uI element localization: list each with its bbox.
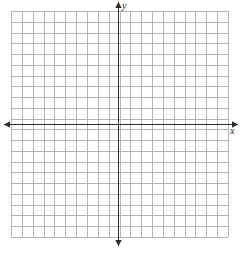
- grid-and-axes-svg: [0, 0, 244, 259]
- y-axis-arrow-up: [115, 2, 121, 8]
- coordinate-grid-figure: y x: [0, 0, 244, 259]
- x-axis-arrow-left: [4, 121, 10, 127]
- y-axis-label: y: [122, 1, 126, 11]
- y-axis-arrow-down: [115, 240, 121, 246]
- x-axis-label: x: [230, 126, 234, 136]
